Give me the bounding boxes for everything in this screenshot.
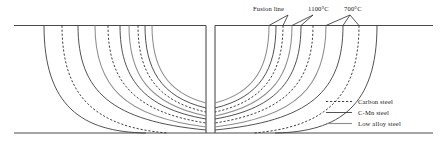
- plate-outline: [14, 26, 433, 134]
- legend-item-c-mn-steel: C-Mn steel: [326, 109, 389, 116]
- leader-700-secondary: [350, 15, 359, 26]
- legend-label-c-mn-steel: C-Mn steel: [358, 109, 389, 116]
- diagram-canvas: Fusion line 1100°C 700°C Carbon steel C-…: [0, 0, 447, 145]
- leader-fusion-line: [269, 15, 288, 26]
- curve-cmn-fusion-right: [215, 26, 276, 109]
- label-fusion-line: Fusion line: [253, 5, 284, 12]
- curve-outer-envelope-left: [44, 26, 146, 134]
- leader-1100: [292, 15, 313, 26]
- label-isotherm-1100: 1100°C: [308, 5, 329, 12]
- label-isotherm-700: 700°C: [344, 5, 362, 12]
- isotherm-curves-right: [215, 26, 377, 134]
- legend-label-low-alloy-steel: Low alloy steel: [358, 120, 401, 127]
- curve-cmn-fusion-left: [145, 26, 206, 109]
- curve-carbon-fusion-right: [215, 26, 283, 113]
- curve-low-alloy-1100-right: [215, 26, 292, 117]
- curve-carbon-fusion-left: [138, 26, 206, 113]
- annotation-labels: Fusion line 1100°C 700°C: [253, 5, 362, 12]
- legend-item-low-alloy-steel: Low alloy steel: [326, 120, 401, 127]
- curve-low-alloy-fusion-right: [215, 26, 269, 104]
- isotherm-curves-left: [44, 26, 206, 134]
- weld-groove: [206, 26, 215, 134]
- weld-haz-diagram: Fusion line 1100°C 700°C Carbon steel C-…: [0, 0, 447, 145]
- legend-item-carbon-steel: Carbon steel: [326, 98, 393, 105]
- curve-low-alloy-1100-left: [129, 26, 206, 117]
- annotation-leaders: [269, 15, 359, 26]
- legend-label-carbon-steel: Carbon steel: [358, 98, 393, 105]
- legend: Carbon steel C-Mn steel Low alloy steel: [326, 98, 401, 127]
- curve-low-alloy-fusion-left: [152, 26, 206, 104]
- curve-outer-envelope-right: [275, 26, 377, 134]
- leader-700: [326, 15, 350, 26]
- curve-carbon-1100-left: [108, 26, 206, 124]
- curve-carbon-1100-right: [215, 26, 313, 124]
